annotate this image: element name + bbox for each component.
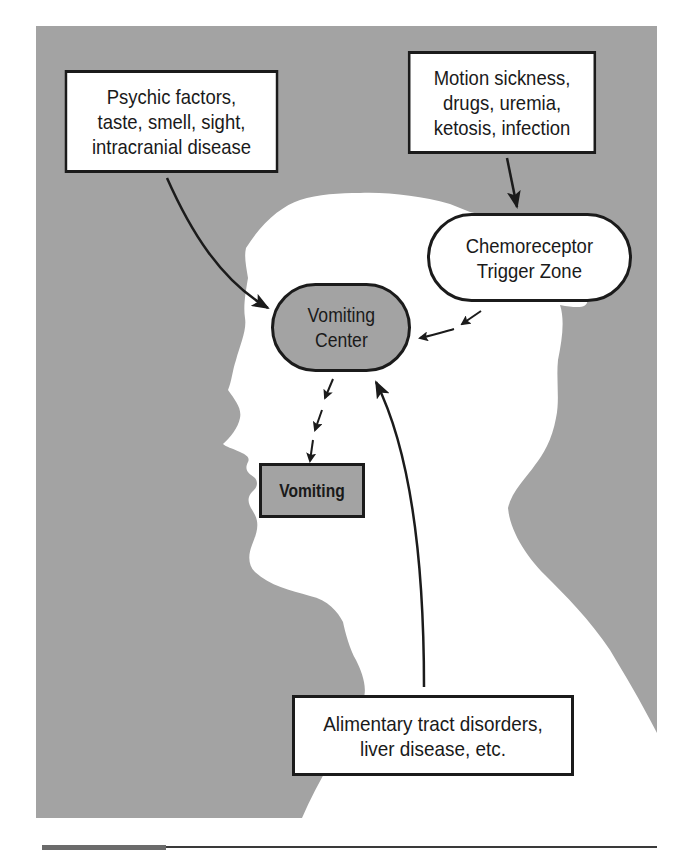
- vomiting-center-node: Vomiting Center: [271, 283, 411, 372]
- psychic-factors-label: Psychic factors, taste, smell, sight, in…: [92, 84, 251, 159]
- motion-sickness-box: Motion sickness, drugs, uremia, ketosis,…: [408, 51, 596, 154]
- footer-accent-bar: [42, 845, 166, 850]
- ctz-label: Chemoreceptor Trigger Zone: [466, 233, 593, 283]
- diagram-figure: Psychic factors, taste, smell, sight, in…: [0, 0, 694, 856]
- vomiting-label: Vomiting: [279, 478, 344, 503]
- alimentary-tract-label: Alimentary tract disorders, liver diseas…: [323, 711, 543, 761]
- vomiting-center-label: Vomiting Center: [307, 303, 375, 353]
- motion-sickness-label: Motion sickness, drugs, uremia, ketosis,…: [434, 65, 571, 140]
- alimentary-tract-box: Alimentary tract disorders, liver diseas…: [292, 695, 574, 776]
- vomiting-box: Vomiting: [259, 463, 365, 518]
- chemoreceptor-trigger-zone-node: Chemoreceptor Trigger Zone: [427, 213, 632, 302]
- psychic-factors-box: Psychic factors, taste, smell, sight, in…: [65, 70, 279, 173]
